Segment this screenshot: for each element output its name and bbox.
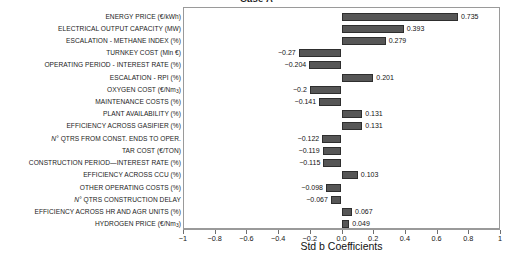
category-label: ELECTRICAL OUTPUT CAPACITY (MW) xyxy=(0,25,181,33)
bar xyxy=(342,74,374,82)
bar xyxy=(326,184,342,192)
bar xyxy=(331,196,342,204)
bar xyxy=(342,171,358,179)
bar xyxy=(342,110,363,118)
bar-value-label: 0.067 xyxy=(355,208,373,216)
bar-value-label: −0.122 xyxy=(298,135,320,143)
bar-value-label: −0.067 xyxy=(306,196,328,204)
bar-value-label: 0.393 xyxy=(407,25,425,33)
bar xyxy=(323,159,341,167)
bars-layer: 0.7350.3930.279−0.27−0.2040.201−0.2−0.14… xyxy=(183,7,500,229)
bar-value-label: −0.204 xyxy=(285,61,307,69)
category-axis-labels: ENERGY PRICE (€/kWh)ELECTRICAL OUTPUT CA… xyxy=(0,7,181,229)
bar-value-label: −0.2 xyxy=(293,86,307,94)
bar xyxy=(322,135,341,143)
category-label: EFFICIENCY ACROSS GASIFIER (%) xyxy=(0,122,181,130)
category-label: PLANT AVAILABILITY (%) xyxy=(0,110,181,118)
bar xyxy=(299,49,342,57)
bar xyxy=(323,147,342,155)
bar-value-label: 0.735 xyxy=(461,13,479,21)
category-label: CONSTRUCTION PERIOD—INTEREST RATE (%) xyxy=(0,159,181,167)
category-label: ESCALATION - RPI (%) xyxy=(0,74,181,82)
category-label: OPERATING PERIOD - INTEREST RATE (%) xyxy=(0,61,181,69)
bar-value-label: 0.131 xyxy=(365,110,383,118)
x-axis-title: Std b Coefficients xyxy=(183,240,500,252)
category-label: N° QTRS CONSTRUCTION DELAY xyxy=(0,196,181,204)
bar-value-label: −0.119 xyxy=(299,147,320,155)
category-label: MAINTENANCE COSTS (%) xyxy=(0,98,181,106)
bar xyxy=(342,25,404,33)
bar-value-label: −0.141 xyxy=(295,98,317,106)
chart-title: Case A xyxy=(0,0,513,4)
bar-value-label: −0.098 xyxy=(301,184,323,192)
bar xyxy=(342,13,458,21)
bar-value-label: 0.279 xyxy=(389,37,407,45)
bar xyxy=(310,86,342,94)
bar-value-label: 0.201 xyxy=(376,74,394,82)
bar xyxy=(319,98,341,106)
category-label: ESCALATION - METHANE INDEX (%) xyxy=(0,37,181,45)
bar-value-label: 0.103 xyxy=(361,171,379,179)
category-label: TURNKEY COST (Mln €) xyxy=(0,49,181,57)
category-label: N° QTRS FROM CONST. ENDS TO OPER. xyxy=(0,135,181,143)
category-label: OTHER OPERATING COSTS (%) xyxy=(0,184,181,192)
bar-value-label: 0.131 xyxy=(365,122,383,130)
category-label: TAR COST (€/TON) xyxy=(0,147,181,155)
category-label: OXYGEN COST (€/Nm3) xyxy=(0,86,181,95)
bar xyxy=(342,220,350,228)
tornado-chart-figure: Case A ENERGY PRICE (€/kWh)ELECTRICAL OU… xyxy=(0,0,513,257)
bar xyxy=(342,208,353,216)
category-label: ENERGY PRICE (€/kWh) xyxy=(0,13,181,21)
bar-value-label: 0.049 xyxy=(352,220,370,228)
bar xyxy=(342,122,363,130)
category-label: HYDROGEN PRICE (€/Nm3) xyxy=(0,220,181,229)
category-label: EFFICIENCY ACROSS CCU (%) xyxy=(0,171,181,179)
bar-value-label: −0.27 xyxy=(278,49,296,57)
bar xyxy=(342,37,386,45)
bar-value-label: −0.115 xyxy=(299,159,320,167)
category-label: EFFICIENCY ACROSS HR AND AGR UNITS (%) xyxy=(0,208,181,216)
bar xyxy=(309,61,341,69)
